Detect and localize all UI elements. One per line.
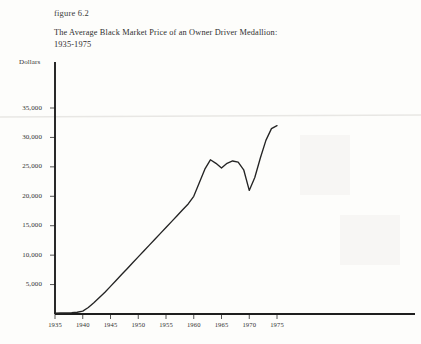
x-tick-label: 1970 <box>237 321 261 328</box>
chart-plot <box>0 0 421 344</box>
x-tick-label: 1940 <box>71 321 95 328</box>
y-tick-label: 5,000 <box>2 280 42 288</box>
x-tick-label: 1960 <box>182 321 206 328</box>
y-tick-label: 10,000 <box>2 251 42 259</box>
y-tick-label: 20,000 <box>2 192 42 200</box>
y-tick-label: 35,000 <box>2 104 42 112</box>
x-tick-label: 1945 <box>99 321 123 328</box>
scan-fold-line <box>0 115 421 117</box>
data-series-line <box>55 126 277 313</box>
x-tick-label: 1955 <box>154 321 178 328</box>
y-tick-label: 15,000 <box>2 221 42 229</box>
y-tick-label: 25,000 <box>2 162 42 170</box>
x-tick-label: 1935 <box>43 321 67 328</box>
y-tick-label: 30,000 <box>2 133 42 141</box>
x-tick-label: 1975 <box>265 321 289 328</box>
x-tick-label: 1965 <box>210 321 234 328</box>
figure-page: figure 6.2 The Average Black Market Pric… <box>0 0 421 344</box>
x-tick-label: 1950 <box>126 321 150 328</box>
